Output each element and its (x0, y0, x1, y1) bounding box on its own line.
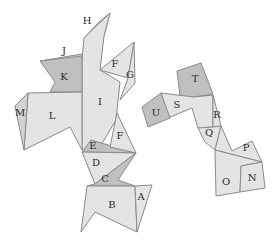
face-label-j: J (61, 45, 66, 56)
face-label-s: S (174, 99, 181, 110)
face-label-f2: F (117, 130, 124, 141)
face-label-b: B (108, 199, 115, 210)
face-label-o: O (222, 176, 230, 187)
face-label-l: L (49, 110, 56, 121)
face-label-g: G (126, 69, 134, 80)
face-label-k: K (60, 71, 68, 82)
face-label-d: D (92, 157, 100, 168)
face-label-h: H (83, 15, 92, 26)
face-label-e: E (89, 140, 96, 151)
face-label-u: U (152, 107, 160, 118)
face-label-q: Q (205, 127, 213, 138)
polyhedron-nets-diagram: HIJKLMFGEFDCBA TSURQPON (0, 0, 280, 249)
face-label-i: I (98, 96, 102, 107)
net-right: TSURQPON (142, 63, 265, 196)
face-s (161, 93, 213, 128)
face-label-f1: F (112, 58, 119, 69)
net-left: HIJKLMFGEFDCBA (15, 13, 152, 232)
face-label-m: M (15, 107, 25, 118)
face-label-p: P (243, 142, 250, 153)
face-label-r: R (213, 109, 221, 120)
face-label-n: N (248, 172, 257, 183)
face-l (24, 92, 82, 150)
face-label-t: T (192, 73, 199, 84)
face-label-a: A (136, 191, 145, 202)
face-label-c: C (101, 173, 109, 184)
